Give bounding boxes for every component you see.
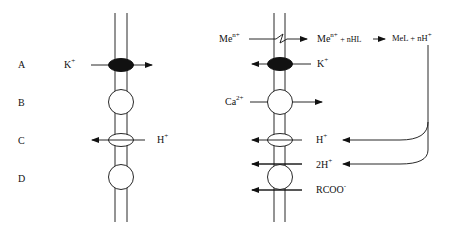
- row-label-d: D: [18, 174, 25, 184]
- k-channel-filled-right: [268, 58, 293, 71]
- h-ion-label: H+: [157, 135, 168, 145]
- row-label-a: A: [18, 60, 25, 70]
- ca-ion-label: Ca2+: [225, 97, 244, 107]
- ca-channel-circle-right: [268, 90, 293, 115]
- row-label-b: B: [18, 98, 25, 108]
- row-label-c: C: [18, 136, 25, 146]
- 2h-ion-label: 2H+: [316, 160, 332, 170]
- d-channel-circle: [109, 165, 134, 190]
- metal-ion-outside: Men+: [219, 34, 240, 44]
- proton-feedback-curve-1: [343, 45, 428, 140]
- k-channel-filled: [109, 59, 134, 72]
- left-membrane: [91, 13, 152, 222]
- k-ion-label: K+: [64, 60, 75, 70]
- d-channel-circle-right: [268, 165, 293, 190]
- metal-influx-arrow: [249, 34, 307, 43]
- complex-product: MeL + nH+: [392, 34, 432, 43]
- ca-channel-circle: [109, 90, 134, 115]
- metal-ion-inside: Men+ + nHL: [317, 34, 361, 44]
- rcoo-ion-label: RCOO-: [316, 185, 346, 195]
- h-ion-label-right: H+: [316, 135, 327, 145]
- k-ion-label-right: K+: [317, 59, 328, 69]
- proton-feedback-curve-2: [343, 122, 428, 164]
